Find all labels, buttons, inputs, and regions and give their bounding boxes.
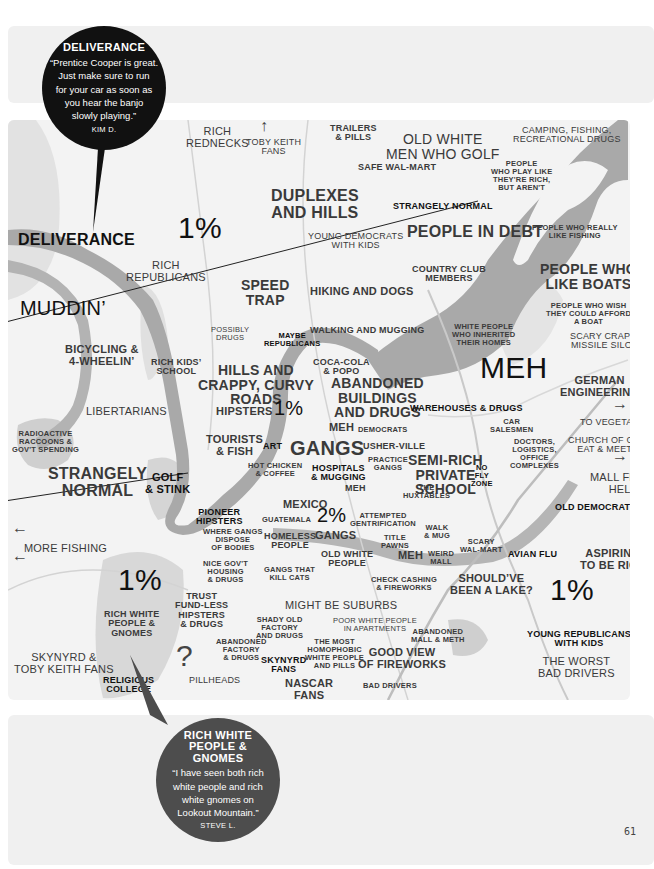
label-toby-keith-fans: TOBY KEITHFANS [246,138,301,157]
label-strangely-normal-left: STRANGELYNORMAL [48,466,147,500]
label-abandoned-mall-meth: ABANDONEDMALL & METH [411,628,465,644]
callout-quote: “Prentice Cooper is great. Just make sur… [50,56,158,122]
arrow-left-icon-2: ← [12,548,28,565]
callout-quote: “I have seen both rich white people and … [172,766,263,819]
arrow-right-icon-2: → [612,448,628,465]
label-muddin: MUDDIN’ [20,298,106,319]
label-old-white-people: OLD WHITEPEOPLE [321,550,373,569]
label-pillheads: PILLHEADS [189,676,240,685]
label-guatemala: GUATEMALA [262,516,311,524]
label-white-people-inherited: WHITE PEOPLEWHO INHERITEDTHEIR HOMES [452,323,515,347]
callout-author: STEVE L. [200,821,235,830]
label-meh-democrats-meh: MEH [329,422,354,434]
callout-deliverance: DELIVERANCE “Prentice Cooper is great. J… [42,26,166,150]
label-skynyrd-fans: SKYNYRDFANS [261,656,306,675]
label-huxtables: THEHUXTABLES [403,484,450,500]
label-abandoned-factory: ABANDONEDFACTORY& DRUGS [216,638,267,662]
label-avian-flu: AVIAN FLU [508,550,557,559]
label-nice-govt-housing: NICE GOV'THOUSING& DRUGS [203,560,248,584]
label-bicycling: BICYCLING &4-WHEELIN’ [65,344,139,367]
label-meh-small: MEH [345,484,366,493]
label-people-really-fishing: PEOPLE WHO REALLYLIKE FISHING [532,224,618,240]
label-rich-white-gnomes: RICH WHITEPEOPLE &GNOMES [104,610,160,638]
label-walking-mugging: WALKING AND MUGGING [310,326,424,335]
label-walk-mug: WALK& MUG [424,524,450,540]
label-hospitals-mugging: HOSPITALS& MUGGING [311,464,366,483]
label-poor-white-people: POOR WHITE PEOPLEIN APARTMENTS [333,617,417,633]
page-number: 61 [624,826,636,837]
label-more-fishing: MORE FISHING [24,543,107,555]
label-people-in-debt: PEOPLE IN DEBT [407,224,543,241]
label-art: ART [263,442,282,451]
label-old-democrats: OLD DEMOCRATS [555,503,630,512]
label-one-percent-b: 1% [274,398,303,419]
label-one-percent-c: 1% [118,564,162,596]
label-gangs-small: GANGS [315,530,356,542]
label-people-play-rich: PEOPLEWHO PLAY LIKETHEY'RE RICH,BUT AREN… [491,160,552,192]
label-tourists-fish: TOURISTS& FISH [206,434,263,457]
label-strangely-normal-top: STRANGELY NORMAL [393,202,493,211]
label-scary-walmart: SCARYWAL-MART [460,538,502,554]
label-duplexes-hills: DUPLEXESAND HILLS [271,188,359,222]
label-speed-trap: SPEEDTRAP [241,278,289,307]
label-good-view-fireworks: GOOD VIEWOF FIREWORKS [358,647,446,670]
label-hot-chicken: HOT CHICKEN& COFFEE [248,462,302,478]
label-country-club: COUNTRY CLUBMEMBERS [412,265,486,284]
label-hipsters: HIPSTERS [216,406,273,418]
label-trust-fund: TRUSTFUND-LESSHIPSTERS& DRUGS [175,592,228,630]
label-people-like-boats: PEOPLE WHOLIKE BOATS [540,262,630,291]
map[interactable]: RICHREDNECKS ↑ TOBY KEITHFANS TRAILERS& … [8,120,630,700]
label-where-gangs-dispose: WHERE GANGSDISPOSEOF BODIES [203,528,263,552]
label-libertarians: LIBERTARIANS [86,406,167,418]
label-car-salesmen: CARSALESMEN [490,418,533,434]
label-title-pawns: TITLEPAWNS [381,534,409,550]
label-aspiring-rich: ASPIRINGTO BE RICH [580,548,630,571]
label-young-democrats: YOUNG DEMOCRATSWITH KIDS [308,232,403,251]
arrow-left-icon: ← [12,520,28,537]
label-one-percent-a: 1% [178,212,222,244]
label-no-fly-zone: NOFLYZONE [471,464,493,488]
label-worst-drivers: THE WORSTBAD DRIVERS [538,656,615,679]
label-weird-mall: WEIRDMALL [428,550,454,566]
label-democrats: DEMOCRATS [358,426,408,434]
label-two-percent: 2% [317,505,346,526]
label-to-vegetarians: TO VEGETARIANS [580,418,630,427]
label-homeless-people: HOMELESSPEOPLE [264,532,316,551]
label-old-white-men-golf: OLD WHITEMEN WHO GOLF [386,132,500,161]
label-nascar-fans: NASCARFANS [285,678,333,700]
label-safe-walmart: SAFE WAL-MART [358,163,436,172]
label-skynyrd-toby: SKYNYRD &TOBY KEITH FANS [14,652,114,675]
label-most-homophobic: THE MOSTHOMOPHOBICWHITE PEOPLEAND PILLS [305,638,364,670]
label-doctors: DOCTORS,LOGISTICS,OFFICECOMPLEXES [510,438,559,470]
label-gangs-big: GANGS [290,438,364,459]
label-meh-big: MEH [480,352,547,384]
label-practice-gangs: PRACTICEGANGS [368,456,408,472]
label-mall-from-hell: MALL FROMHELL [590,472,630,495]
callout-author: KIM D. [92,125,117,134]
label-scary-crap: SCARY CRAP &MISSILE SILOS [570,332,630,351]
label-people-wish-boat: PEOPLE WHO WISHTHEY COULD AFFORDA BOAT [546,302,630,326]
label-trailers-pills: TRAILERS& PILLS [330,124,377,143]
label-pioneer-hipsters: PIONEERHIPSTERS [196,508,243,527]
label-bad-drivers: BAD DRIVERS [363,682,417,690]
callout-title: DELIVERANCE [63,42,145,54]
label-attempted-gentrification: ATTEMPTEDGENTRIFICATION [350,512,416,528]
label-meh-weird: MEH [398,550,423,562]
callout-rich-white-gnomes: RICH WHITE PEOPLE & GNOMES “I have seen … [156,718,280,842]
label-camping-fishing: CAMPING, FISHING,RECREATIONAL DRUGS [513,126,621,145]
label-check-cashing: CHECK CASHING& FIREWORKS [371,576,437,592]
arrow-up-icon: ↑ [260,120,268,135]
label-deliverance: DELIVERANCE [18,232,135,249]
label-usher-ville: USHER-VILLE [363,442,425,451]
label-question-mark: ? [176,640,193,672]
label-hiking-dogs: HIKING AND DOGS [310,286,413,298]
label-rich-rednecks: RICHREDNECKS [186,126,249,149]
label-warehouses-drugs: WAREHOUSES & DRUGS [410,404,523,413]
label-rich-kids-school: RICH KIDS’SCHOOL [151,358,202,377]
label-abandoned-buildings: ABANDONEDBUILDINGSAND DRUGS [331,376,424,420]
label-gangs-kill-cats: GANGS THATKILL CATS [264,566,315,582]
label-shouldve-lake: SHOULD’VEBEEN A LAKE? [450,573,533,596]
label-young-republicans: YOUNG REPUBLICANSWITH KIDS [527,630,630,649]
arrow-right-icon: → [612,396,628,413]
label-religious-college: RELIGIOUSCOLLEGE [103,676,154,695]
